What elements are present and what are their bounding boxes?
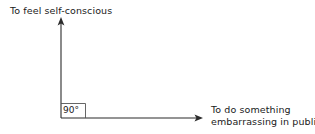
- right-angle-label: 90°: [63, 104, 79, 116]
- x-axis-label-line-2: embarrassing in public: [211, 116, 315, 128]
- x-axis-label-line-1: To do something: [211, 104, 315, 116]
- y-axis-label: To feel self-conscious: [10, 5, 112, 17]
- x-axis-label: To do something embarrassing in public: [211, 104, 315, 128]
- right-angle-axes-diagram: To feel self-conscious To do something e…: [0, 0, 315, 134]
